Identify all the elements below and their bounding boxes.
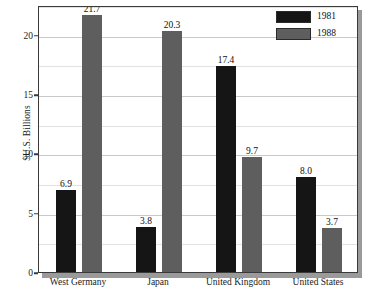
bar-chart: $U.S. Billions 6.921.73.820.317.49.78.03…	[0, 0, 371, 297]
x-axis-labels: West GermanyJapanUnited KingdomUnited St…	[38, 277, 358, 295]
bar: 6.9	[56, 190, 76, 272]
y-axis-title: $U.S. Billions	[22, 58, 32, 208]
legend-swatch-icon	[276, 11, 311, 23]
plot-frame: 6.921.73.820.317.49.78.03.7	[38, 6, 358, 273]
legend-item[interactable]: 1981	[276, 11, 336, 23]
y-tick-mark	[34, 94, 38, 96]
bar: 8.0	[296, 177, 316, 272]
bar-value-label: 6.9	[60, 179, 72, 189]
bar-value-label: 8.0	[300, 166, 312, 176]
x-axis-category-label: United Kingdom	[206, 277, 270, 287]
bar: 3.8	[136, 227, 156, 272]
bar: 3.7	[322, 228, 342, 272]
x-axis-category-label: Japan	[147, 277, 169, 287]
bar: 21.7	[82, 15, 102, 273]
y-tick-mark	[34, 154, 38, 156]
x-axis-category-label: United States	[293, 277, 344, 287]
y-tick-mark	[34, 213, 38, 215]
chart-legend: 19811988	[276, 11, 336, 40]
x-axis-category-label: West Germany	[50, 277, 106, 287]
y-tick-mark	[34, 35, 38, 37]
plot-area: 6.921.73.820.317.49.78.03.7	[39, 7, 357, 272]
y-tick-label: 15	[24, 90, 34, 100]
bar: 9.7	[242, 157, 262, 272]
bar: 17.4	[216, 66, 236, 272]
y-tick-label: 0	[28, 268, 33, 278]
bar: 20.3	[162, 31, 182, 272]
legend-item-label: 1988	[317, 29, 336, 39]
legend-item-label: 1981	[317, 12, 336, 22]
y-tick-label: 5	[28, 209, 33, 219]
bar-value-label: 17.4	[218, 55, 235, 65]
legend-item[interactable]: 1988	[276, 28, 336, 40]
bar-value-label: 20.3	[164, 20, 181, 30]
bar-value-label: 3.7	[326, 217, 338, 227]
bar-value-label: 3.8	[140, 216, 152, 226]
legend-swatch-icon	[276, 28, 311, 40]
bar-value-label: 9.7	[246, 146, 258, 156]
y-tick-mark	[34, 272, 38, 274]
y-tick-label: 20	[24, 31, 34, 41]
y-tick-label: 10	[24, 149, 34, 159]
bar-value-label: 21.7	[84, 6, 101, 14]
